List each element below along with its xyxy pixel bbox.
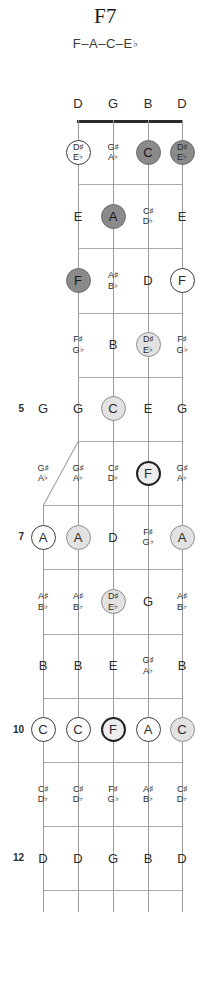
note-f10-s3: A — [131, 715, 165, 745]
note-f10-s5: C — [26, 715, 60, 745]
note-label: D — [108, 531, 117, 544]
fret-wire-2 — [78, 248, 182, 249]
note-f11-s3: A♯B♭ — [131, 779, 165, 809]
note-f3-s4: F — [165, 266, 199, 296]
note-f7-s3: F♯G♭ — [131, 522, 165, 552]
note-f9-s2: E — [96, 651, 130, 681]
note-f8-s2: D♯E♭ — [96, 587, 130, 617]
fret-wire-4 — [78, 377, 182, 378]
note-label: G — [73, 402, 83, 415]
note-label: F — [144, 467, 152, 480]
note-label: G♯A♭ — [143, 655, 154, 676]
note-f12-s2: G — [96, 843, 130, 873]
note-label: C — [177, 723, 186, 736]
note-label: B — [74, 659, 83, 672]
note-label: A — [144, 723, 153, 736]
note-label: F — [109, 723, 117, 736]
note-label: D♯E♭ — [177, 142, 187, 163]
note-f2-s4: E — [165, 201, 199, 231]
note-f10-s2: F — [96, 715, 130, 745]
note-label: A♯B♭ — [73, 591, 83, 612]
note-label: G — [143, 595, 153, 608]
note-f7-s2: D — [96, 522, 130, 552]
note-label: A♯B♭ — [38, 591, 48, 612]
note-f11-s5: C♯D♭ — [26, 779, 60, 809]
note-label: F♯G♭ — [176, 334, 187, 355]
note-f6-s3: F — [131, 458, 165, 488]
note-label: C — [38, 723, 47, 736]
note-f7-s5: A — [26, 522, 60, 552]
note-f11-s2: F♯G♭ — [96, 779, 130, 809]
note-label: C♯D♭ — [143, 206, 154, 227]
note-label: D♯E♭ — [143, 334, 153, 355]
note-label: D — [73, 852, 82, 865]
note-label: E — [74, 210, 83, 223]
note-label: B — [109, 338, 118, 351]
note-f12-s1: D — [61, 843, 95, 873]
note-f4-s2: B — [96, 330, 130, 360]
nut — [77, 120, 183, 123]
note-f5-s2: C — [96, 394, 130, 424]
note-f10-s4: C — [165, 715, 199, 745]
fret-marker-12: 12 — [6, 852, 24, 863]
note-label: D — [143, 274, 152, 287]
note-label: C♯D♭ — [108, 463, 119, 484]
note-f9-s5: B — [26, 651, 60, 681]
open-string-label-4: D — [171, 96, 193, 111]
note-label: D♯E♭ — [108, 591, 118, 612]
open-string-label-3: B — [137, 96, 159, 111]
note-label: G♯A♭ — [177, 463, 188, 484]
note-f6-s2: C♯D♭ — [96, 458, 130, 488]
fret-wire-5 — [78, 441, 182, 442]
fret-wire-3 — [78, 313, 182, 314]
note-label: A — [74, 531, 83, 544]
fret-wire-1 — [78, 184, 182, 185]
note-f6-s4: G♯A♭ — [165, 458, 199, 488]
note-f6-s5: G♯A♭ — [26, 458, 60, 488]
note-f7-s4: A — [165, 522, 199, 552]
note-f8-s4: A♯B♭ — [165, 587, 199, 617]
note-f12-s5: D — [26, 843, 60, 873]
open-string-label-1: D — [67, 96, 89, 111]
note-f4-s4: F♯G♭ — [165, 330, 199, 360]
note-label: A♯B♭ — [177, 591, 187, 612]
note-f3-s2: A♯B♭ — [96, 266, 130, 296]
note-f5-s3: E — [131, 394, 165, 424]
note-label: A — [39, 531, 48, 544]
note-label: B — [178, 659, 187, 672]
note-label: A♯B♭ — [143, 784, 153, 805]
note-label: E — [144, 402, 153, 415]
note-label: B — [39, 659, 48, 672]
note-f2-s1: E — [61, 201, 95, 231]
fret-marker-5: 5 — [6, 403, 24, 414]
note-label: G — [177, 402, 187, 415]
note-f12-s4: D — [165, 843, 199, 873]
note-label: G — [38, 402, 48, 415]
note-f10-s1: C — [61, 715, 95, 745]
note-label: C — [143, 146, 152, 159]
note-label: D♯E♭ — [73, 142, 83, 163]
note-label: C — [108, 402, 117, 415]
note-label: F♯G♭ — [142, 527, 153, 548]
open-string-label-2: G — [102, 96, 124, 111]
note-f4-s3: D♯E♭ — [131, 330, 165, 360]
note-f5-s4: G — [165, 394, 199, 424]
note-label: G♯A♭ — [38, 463, 49, 484]
fret-marker-7: 7 — [6, 531, 24, 542]
fretboard-diagram: F7 F–A–C–E♭ DGBDD♯E♭G♯A♭CD♯E♭EAC♯D♭EFA♯B… — [0, 0, 211, 1001]
note-label: A — [178, 531, 187, 544]
note-label: E — [109, 659, 118, 672]
note-label: F — [178, 274, 186, 287]
note-label: G♯A♭ — [108, 142, 119, 163]
note-f12-s3: B — [131, 843, 165, 873]
note-f1-s3: C — [131, 137, 165, 167]
note-f5-s1: G — [61, 394, 95, 424]
note-f11-s4: C♯D♭ — [165, 779, 199, 809]
note-f9-s3: G♯A♭ — [131, 651, 165, 681]
note-f1-s4: D♯E♭ — [165, 137, 199, 167]
note-label: C♯D♭ — [73, 784, 84, 805]
note-label: E — [178, 210, 187, 223]
note-f1-s1: D♯E♭ — [61, 137, 95, 167]
note-label: F♯G♭ — [107, 784, 118, 805]
note-label: F — [74, 274, 82, 287]
